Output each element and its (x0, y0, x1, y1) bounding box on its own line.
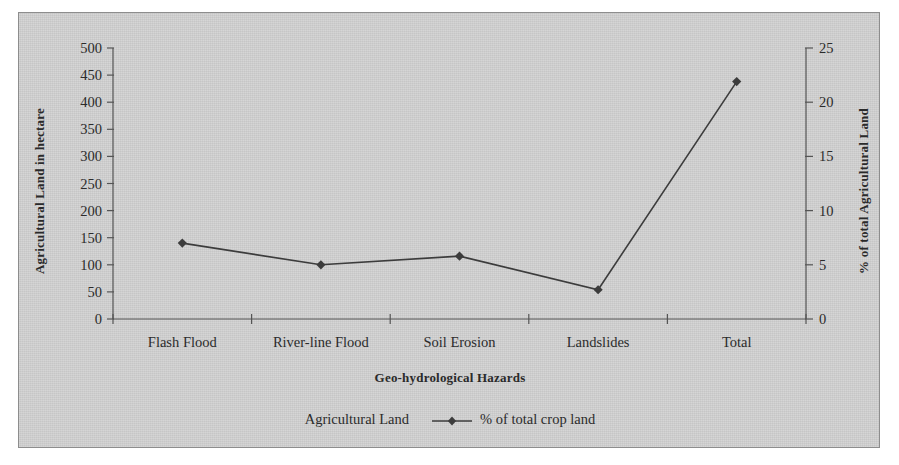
svg-text:150: 150 (80, 230, 102, 246)
svg-text:450: 450 (80, 67, 102, 83)
legend-line-diamond-marker-icon (431, 414, 473, 426)
y-axis-right-title: % of total Agricultural Land (856, 46, 872, 336)
data-point-marker (316, 260, 325, 269)
svg-text:Total: Total (722, 334, 752, 350)
svg-text:15: 15 (819, 148, 834, 164)
legend-entry-percent-crop-land: % of total crop land (431, 411, 595, 428)
svg-text:River-line Flood: River-line Flood (273, 334, 370, 350)
chart-legend: Agricultural Land % of total crop land (19, 411, 880, 428)
y-axis-left-title: Agricultural Land in hectare (32, 66, 48, 316)
x-axis-tick-labels: Flash FloodRiver-line FloodSoil ErosionL… (148, 334, 752, 350)
svg-text:100: 100 (80, 257, 102, 273)
data-point-marker (178, 239, 187, 248)
legend-entry-agricultural-land: Agricultural Land (305, 411, 409, 428)
svg-text:500: 500 (80, 40, 102, 56)
svg-text:10: 10 (819, 203, 834, 219)
svg-text:300: 300 (80, 148, 102, 164)
data-point-marker (732, 77, 741, 86)
data-point-marker (455, 252, 464, 261)
svg-text:Flash Flood: Flash Flood (148, 334, 218, 350)
svg-text:Landslides: Landslides (567, 334, 630, 350)
svg-text:250: 250 (80, 176, 102, 192)
chart-figure: 500450400350300250200150100500 252015105… (18, 12, 880, 448)
svg-text:0: 0 (95, 311, 102, 327)
svg-text:350: 350 (80, 121, 102, 137)
svg-text:5: 5 (819, 257, 826, 273)
svg-text:25: 25 (819, 40, 834, 56)
data-point-marker (594, 285, 603, 294)
legend-label-percent-crop-land: % of total crop land (480, 411, 595, 428)
svg-text:Soil Erosion: Soil Erosion (423, 334, 496, 350)
x-axis-title: Geo-hydrological Hazards (19, 370, 880, 386)
y-axis-left-ticks: 500450400350300250200150100500 (80, 40, 114, 327)
svg-text:400: 400 (80, 94, 102, 110)
legend-label-agricultural-land: Agricultural Land (305, 411, 409, 428)
svg-text:50: 50 (88, 284, 103, 300)
svg-text:0: 0 (819, 311, 826, 327)
svg-text:20: 20 (819, 94, 834, 110)
svg-text:200: 200 (80, 203, 102, 219)
y-axis-right-ticks: 2520151050 (805, 40, 834, 327)
series-markers-percent-crop-land (178, 77, 742, 294)
